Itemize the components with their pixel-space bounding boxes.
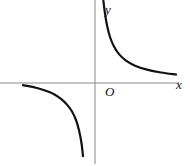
hyperbola-branch-quadrant-iii (23, 85, 83, 156)
hyperbola-plot (0, 0, 190, 166)
origin-label: O (105, 85, 114, 98)
y-axis-label: y (105, 3, 111, 16)
x-axis-label: x (176, 78, 182, 91)
hyperbola-branch-quadrant-i (103, 1, 176, 75)
hyperbola-figure: y x O (0, 0, 190, 166)
